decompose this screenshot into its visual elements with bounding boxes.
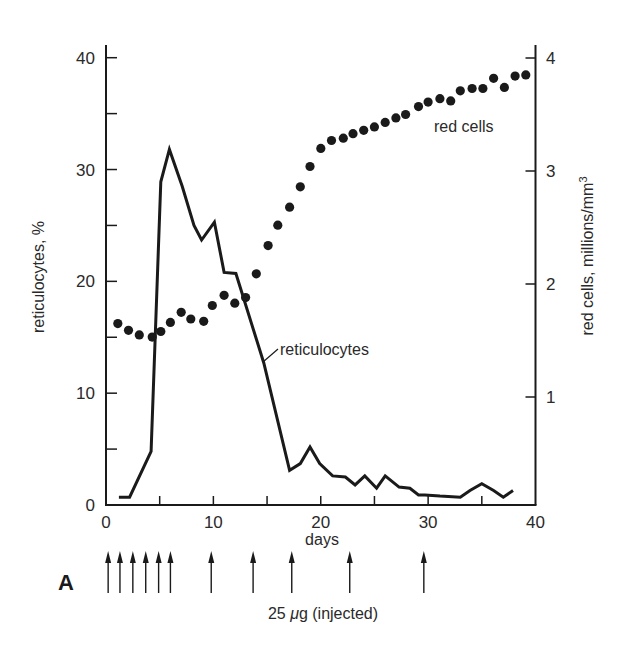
red-cells-data-point xyxy=(186,314,195,323)
red-cells-data-point xyxy=(521,70,530,79)
red-cells-data-point xyxy=(113,319,122,328)
x-tick-label: 0 xyxy=(101,513,110,532)
left-axis-title: reticulocytes, % xyxy=(30,221,47,333)
red-cells-data-point xyxy=(468,84,477,93)
y-left-tick-label: 20 xyxy=(76,272,95,291)
red-cells-data-point xyxy=(177,308,186,317)
red-cells-data-point xyxy=(316,144,325,153)
injection-arrow-icon xyxy=(156,551,162,593)
y-right-tick-label: 4 xyxy=(546,49,555,68)
red-cells-data-point xyxy=(500,83,509,92)
red-cells-data-point xyxy=(296,182,305,191)
red-cells-data-point xyxy=(339,134,348,143)
y-left-tick-label: 10 xyxy=(76,384,95,403)
axes xyxy=(105,45,537,505)
red-cells-data-point xyxy=(456,86,465,95)
right-axis-title-superscript: 3 xyxy=(577,176,589,182)
panel-letter: A xyxy=(58,570,74,595)
y-right-tick-label: 3 xyxy=(546,162,555,181)
red-cells-data-point xyxy=(305,162,314,171)
y-left-tick-label: 0 xyxy=(86,496,95,515)
injection-arrow-icon xyxy=(208,551,214,593)
red-cells-data-point xyxy=(446,96,455,105)
right-axis-title: red cells, millions/mm3 xyxy=(577,176,596,335)
right-axis-title-text: red cells, millions/mm xyxy=(579,183,596,336)
red-cells-data-point xyxy=(391,113,400,122)
red-cells-data-point xyxy=(489,74,498,83)
reticulocytes-annotation: reticulocytes xyxy=(280,341,369,358)
red-cells-data-point xyxy=(381,118,390,127)
injection-unit: g (injected) xyxy=(299,605,378,622)
reticulocytes-series-line xyxy=(119,149,513,497)
red-cells-data-point xyxy=(285,203,294,212)
injection-arrow-icon xyxy=(143,551,149,593)
injection-arrow-icon xyxy=(167,551,173,593)
injection-arrow-icon xyxy=(421,551,427,593)
red-cells-data-point xyxy=(435,94,444,103)
x-tick-label: 20 xyxy=(311,513,330,532)
red-cells-data-point xyxy=(124,326,133,335)
red-cells-data-point xyxy=(156,327,165,336)
injection-arrow-icon xyxy=(250,551,256,593)
y-right-tick-label: 2 xyxy=(546,275,555,294)
red-cells-data-point xyxy=(264,241,273,250)
red-cells-data-point xyxy=(348,129,357,138)
injection-dose: 25 xyxy=(268,605,290,622)
x-ticks: 010203040 xyxy=(101,496,545,532)
red-cells-annotation: red cells xyxy=(434,118,494,135)
red-cells-data-point xyxy=(166,318,175,327)
y-left-tick-label: 30 xyxy=(76,161,95,180)
red-cells-data-point xyxy=(208,301,217,310)
red-cells-data-point xyxy=(220,291,229,300)
red-cells-data-point xyxy=(230,299,239,308)
red-cells-data-point xyxy=(148,333,157,342)
x-tick-label: 30 xyxy=(419,513,438,532)
injection-arrow-icon xyxy=(105,551,111,593)
injection-arrow-icon xyxy=(289,551,295,593)
red-cells-data-point xyxy=(252,269,261,278)
red-cells-data-point xyxy=(510,72,519,81)
red-cells-data-point xyxy=(199,317,208,326)
left-y-ticks: 010203040 xyxy=(76,49,117,515)
injection-arrow-icon xyxy=(130,551,136,593)
injection-arrow-icon xyxy=(117,551,123,593)
y-left-tick-label: 40 xyxy=(76,49,95,68)
red-cells-data-point xyxy=(135,330,144,339)
red-cells-data-point xyxy=(424,98,433,107)
reticulocytes-leader-line xyxy=(263,349,278,362)
injection-arrow-icon xyxy=(347,551,353,593)
chart-figure: 010203040 1234 010203040 reticulocytes, … xyxy=(0,0,628,650)
red-cells-data-point xyxy=(370,122,379,131)
right-y-ticks: 1234 xyxy=(526,49,556,407)
injection-label: 25 μg (injected) xyxy=(268,605,378,622)
y-right-tick-label: 1 xyxy=(546,388,555,407)
injection-arrows xyxy=(105,551,427,593)
x-tick-label: 10 xyxy=(204,513,223,532)
x-axis-title: days xyxy=(305,531,339,548)
red-cells-series-dots xyxy=(113,70,530,341)
red-cells-data-point xyxy=(478,84,487,93)
red-cells-data-point xyxy=(414,102,423,111)
red-cells-data-point xyxy=(327,136,336,145)
red-cells-data-point xyxy=(273,221,282,230)
injection-mu-symbol: μ xyxy=(289,605,299,622)
red-cells-data-point xyxy=(401,110,410,119)
red-cells-data-point xyxy=(241,293,250,302)
red-cells-data-point xyxy=(359,126,368,135)
x-tick-label: 40 xyxy=(526,513,545,532)
